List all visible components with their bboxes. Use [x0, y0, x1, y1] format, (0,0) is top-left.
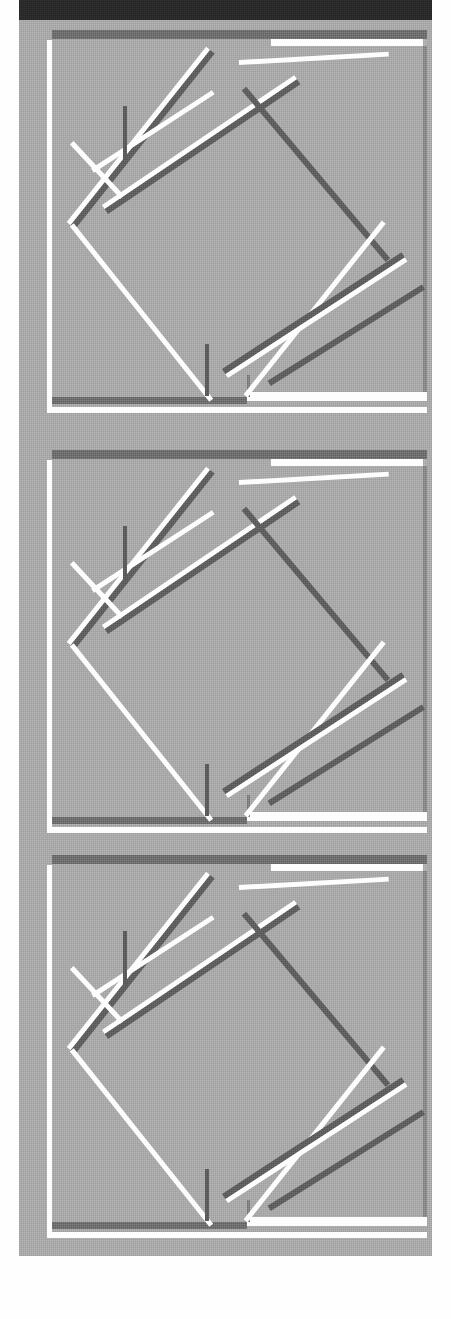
frame-bottom-highlight — [47, 1232, 427, 1238]
page-right-margin — [432, 0, 451, 1319]
diamond-stroke-upper-parallel-hi — [91, 90, 216, 174]
rotated-square-figure — [71, 462, 383, 814]
frame-bottom-shadow — [52, 397, 247, 404]
diamond-stroke-upper-inner-hi — [239, 877, 389, 892]
frame-bottom-highlight — [47, 407, 427, 413]
frame-right-shadow — [423, 459, 427, 817]
frame-left-highlight — [47, 865, 52, 1237]
diamond-corner-nub-bottom — [205, 344, 209, 396]
scan-body — [19, 20, 432, 1256]
frame-bottom-shadow — [52, 1222, 247, 1229]
frame-left-highlight — [47, 460, 52, 832]
frame-left-highlight — [47, 40, 52, 412]
frame-top-shadow — [52, 30, 427, 39]
figure-panel — [19, 845, 432, 1256]
page-bottom-white — [0, 1256, 451, 1319]
diamond-edge-bottom-left — [68, 643, 213, 823]
diamond-stroke-upper-parallel-hi — [91, 915, 216, 999]
frame-bottom-highlight — [47, 827, 427, 833]
frame-bottom-shadow — [52, 817, 247, 824]
rotated-square-figure — [71, 42, 383, 394]
diamond-corner-nub-top — [123, 106, 127, 160]
diamond-stroke-upper-inner-hi — [239, 52, 389, 67]
diamond-stroke-upper-parallel-hi — [91, 510, 216, 594]
diamond-stroke-upper-inner-hi — [239, 472, 389, 487]
frame-top-shadow — [52, 450, 427, 459]
scanned-page — [0, 0, 451, 1319]
frame-top-shadow — [52, 855, 427, 864]
diamond-edge-bottom-left — [68, 1048, 213, 1228]
diamond-corner-nub-bottom — [205, 764, 209, 816]
diamond-corner-nub-top — [123, 931, 127, 985]
frame-right-shadow — [423, 39, 427, 397]
top-dark-bar — [19, 0, 432, 20]
figure-panel — [19, 440, 432, 852]
diamond-corner-nub-top — [123, 526, 127, 580]
figure-panel — [19, 20, 432, 432]
frame-right-shadow — [423, 864, 427, 1222]
diamond-corner-nub-bottom — [205, 1169, 209, 1221]
page-left-margin — [0, 0, 19, 1319]
diamond-edge-bottom-left — [68, 223, 213, 403]
rotated-square-figure — [71, 867, 383, 1219]
